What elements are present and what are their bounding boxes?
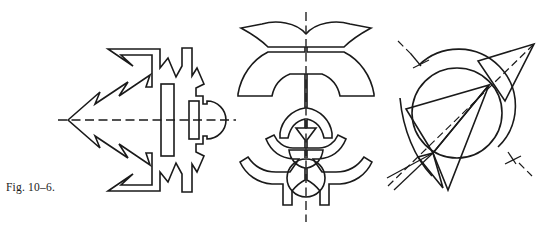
panel-2-outline-left <box>238 22 306 205</box>
panel-2-winged-ornament-shape <box>238 12 374 222</box>
panel-3-tick-mark-upper-left <box>398 41 429 68</box>
panel-3-axis-extension-upper-left <box>398 41 412 55</box>
panel-3-circle <box>412 68 502 158</box>
panel-3-tick-upper-left-bar <box>413 60 429 68</box>
panel-3-lower-wedge <box>433 85 489 190</box>
panel-3-circle-and-wedge-shape <box>387 41 534 190</box>
panel-3-tick-lower-right-bar <box>505 156 521 164</box>
figure-canvas <box>0 0 548 232</box>
panel-3-outer-arc <box>419 49 515 147</box>
panel-3-tick-mark-lower-right <box>505 152 532 176</box>
figure-caption: Fig. 10–6. <box>6 181 55 193</box>
panel-2-outline-right <box>306 22 374 205</box>
panel-3-lower-left-arc <box>400 98 432 176</box>
figure-page: Fig. 10–6. <box>0 0 548 232</box>
panel-3-axis-extension-lower-right <box>519 163 532 176</box>
panel-1-arrow-fish-shape <box>58 48 236 192</box>
